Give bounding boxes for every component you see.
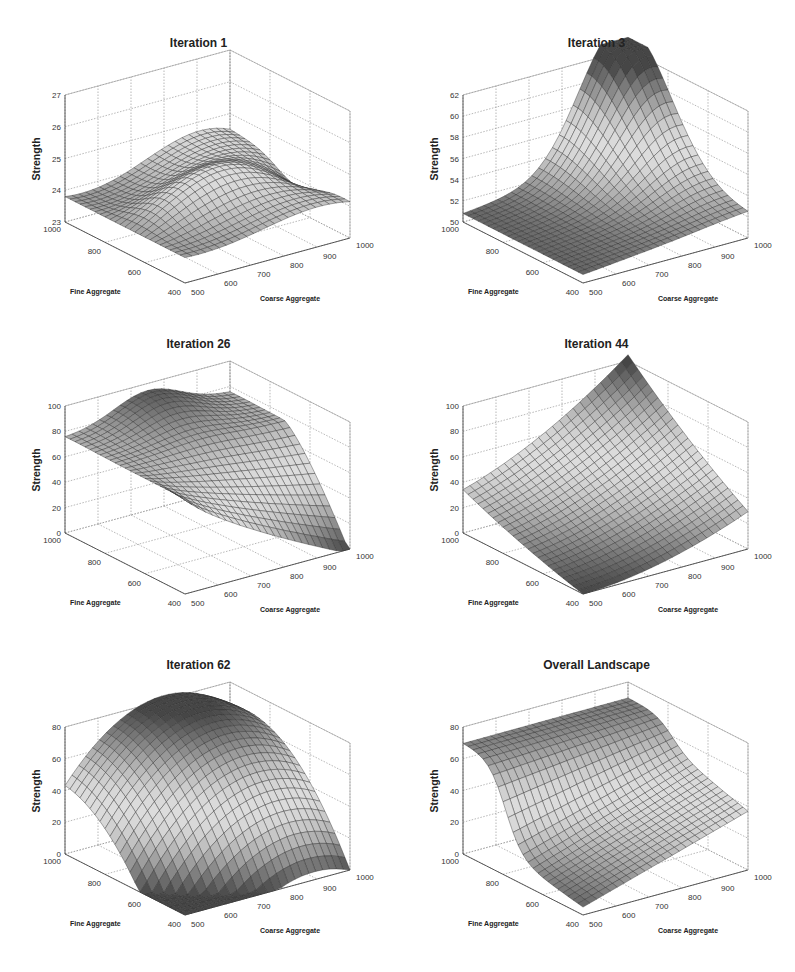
tick-label: 20 — [52, 818, 61, 827]
tick-label: 800 — [688, 572, 702, 581]
surface-mesh — [65, 389, 350, 551]
plot-title: Iteration 26 — [0, 337, 397, 351]
grid-line — [65, 533, 185, 594]
tick-label: 1000 — [356, 873, 374, 882]
subplot-6: 0204060804006008001000500600700800900100… — [398, 648, 795, 972]
subplot-5: 0204060804006008001000500600700800900100… — [0, 648, 397, 972]
tick-label: 1000 — [441, 536, 459, 545]
tick-label: 60 — [450, 755, 459, 764]
subplot-1: 2324252627400600800100050060070080090010… — [0, 0, 397, 324]
tick-label: 500 — [589, 920, 603, 929]
tick-label: 900 — [323, 884, 337, 893]
y-axis-label: Coarse Aggregate — [260, 927, 320, 934]
tick-label: 100 — [446, 402, 460, 411]
tick-label: 56 — [450, 155, 459, 164]
tick-label: 400 — [566, 288, 580, 297]
surface-plot: 0204060801004006008001000500600700800900… — [0, 325, 397, 649]
tick-label: 700 — [257, 902, 271, 911]
tick-label: 700 — [257, 270, 271, 279]
tick-label: 40 — [450, 478, 459, 487]
grid-line — [230, 82, 350, 143]
plot-title: Iteration 62 — [0, 658, 397, 672]
tick-label: 500 — [589, 288, 603, 297]
z-axis-label: Strength — [428, 448, 440, 491]
tick-label: 600 — [128, 900, 142, 909]
y-axis-label: Coarse Aggregate — [260, 295, 320, 302]
tick-label: 800 — [688, 261, 702, 270]
subplot-4: 0204060801004006008001000500600700800900… — [398, 325, 795, 649]
tick-label: 60 — [52, 755, 61, 764]
plot-title: Overall Landscape — [398, 658, 795, 672]
tick-label: 800 — [88, 558, 102, 567]
tick-label: 800 — [290, 893, 304, 902]
z-axis-label: Strength — [30, 769, 42, 812]
tick-label: 80 — [450, 427, 459, 436]
tick-label: 700 — [655, 581, 669, 590]
tick-label: 400 — [566, 599, 580, 608]
tick-label: 500 — [191, 920, 205, 929]
tick-label: 1000 — [441, 225, 459, 234]
tick-label: 600 — [128, 579, 142, 588]
tick-label: 900 — [323, 252, 337, 261]
x-axis-label: Fine Aggregate — [70, 599, 121, 606]
y-axis-label: Coarse Aggregate — [658, 927, 718, 934]
tick-label: 1000 — [754, 552, 772, 561]
tick-label: 600 — [622, 279, 636, 288]
tick-label: 700 — [257, 581, 271, 590]
tick-label: 900 — [721, 563, 735, 572]
x-axis-label: Fine Aggregate — [70, 288, 121, 295]
tick-label: 600 — [622, 911, 636, 920]
tick-label: 800 — [88, 879, 102, 888]
surface-mesh — [463, 37, 748, 274]
tick-label: 500 — [191, 288, 205, 297]
tick-label: 800 — [486, 879, 500, 888]
tick-label: 20 — [52, 504, 61, 513]
z-axis-label: Strength — [30, 137, 42, 180]
tick-label: 800 — [88, 247, 102, 256]
tick-label: 27 — [52, 91, 61, 100]
surface-mesh — [463, 355, 748, 594]
tick-label: 1000 — [43, 857, 61, 866]
y-axis-label: Coarse Aggregate — [658, 295, 718, 302]
tick-label: 600 — [224, 279, 238, 288]
tick-label: 600 — [128, 268, 142, 277]
tick-label: 500 — [589, 599, 603, 608]
tick-label: 1000 — [356, 241, 374, 250]
tick-label: 52 — [450, 197, 459, 206]
tick-label: 600 — [526, 268, 540, 277]
tick-label: 62 — [450, 91, 459, 100]
tick-label: 900 — [721, 252, 735, 261]
tick-label: 1000 — [356, 552, 374, 561]
tick-label: 800 — [486, 558, 500, 567]
grid-line — [131, 515, 251, 576]
x-axis-label: Fine Aggregate — [468, 920, 519, 927]
tick-label: 600 — [224, 911, 238, 920]
surface-plot: 0204060804006008001000500600700800900100… — [398, 648, 795, 972]
plot-title: Iteration 1 — [0, 36, 397, 50]
tick-label: 54 — [450, 176, 459, 185]
y-axis-label: Coarse Aggregate — [260, 606, 320, 613]
tick-label: 400 — [168, 599, 182, 608]
plot-title: Iteration 3 — [398, 36, 795, 50]
tick-label: 600 — [526, 579, 540, 588]
tick-label: 1000 — [43, 536, 61, 545]
tick-label: 1000 — [441, 857, 459, 866]
tick-label: 58 — [450, 133, 459, 142]
x-axis-label: Fine Aggregate — [70, 920, 121, 927]
surface-mesh — [65, 128, 350, 257]
tick-label: 100 — [48, 402, 62, 411]
tick-label: 600 — [622, 590, 636, 599]
tick-label: 600 — [526, 900, 540, 909]
tick-label: 60 — [450, 112, 459, 121]
tick-label: 1000 — [43, 225, 61, 234]
grid-line — [98, 524, 218, 585]
tick-label: 40 — [52, 787, 61, 796]
tick-label: 900 — [323, 563, 337, 572]
subplot-3: 0204060801004006008001000500600700800900… — [0, 325, 397, 649]
tick-label: 26 — [52, 123, 61, 132]
tick-label: 600 — [224, 590, 238, 599]
tick-label: 1000 — [754, 241, 772, 250]
tick-label: 500 — [191, 599, 205, 608]
plot-title: Iteration 44 — [398, 337, 795, 351]
tick-label: 25 — [52, 155, 61, 164]
